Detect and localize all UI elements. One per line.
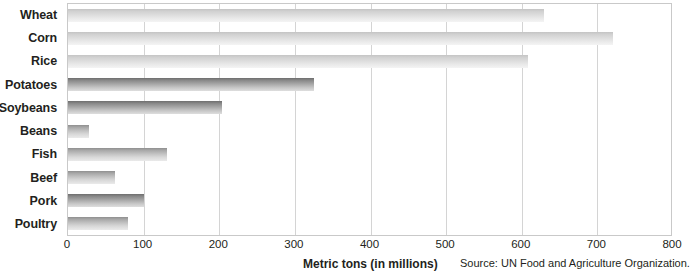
bar [68,32,613,45]
axis-tick-label: 0 [64,238,70,250]
category-axis: WheatCornRicePotatoesSoybeansBeansFishBe… [0,3,62,236]
bar-row [68,4,671,27]
bar-row [68,189,671,212]
axis-tick-label: 100 [133,238,152,250]
bar [68,194,144,207]
source-note: Source: UN Food and Agriculture Organiza… [460,257,690,269]
bar [68,9,544,22]
bar-rows [68,4,671,235]
x-axis-title: Metric tons (in millions) [303,257,438,271]
axis-tick-label: 800 [662,238,681,250]
bar [68,171,115,184]
bar-row [68,27,671,50]
category-label: Potatoes [0,73,62,96]
bar [68,125,89,138]
bar-row [68,166,671,189]
category-label: Corn [0,26,62,49]
category-label: Wheat [0,3,62,26]
axis-tick-label: 700 [587,238,606,250]
bar [68,148,167,161]
axis-tick-label: 500 [436,238,455,250]
category-label: Beef [0,166,62,189]
axis-tick-label: 600 [511,238,530,250]
category-label: Beans [0,119,62,142]
bar [68,55,528,68]
axis-tick-label: 300 [284,238,303,250]
category-label: Fish [0,143,62,166]
bar [68,101,222,114]
bar-row [68,212,671,235]
axis-tick-label: 200 [209,238,228,250]
axis-tick-label: 400 [360,238,379,250]
bar-row [68,119,671,142]
category-label: Rice [0,50,62,73]
plot-area [67,3,672,236]
bar [68,217,128,230]
bar-row [68,96,671,119]
bar [68,78,314,91]
bar-row [68,73,671,96]
bar-row [68,143,671,166]
category-label: Soybeans [0,96,62,119]
bar-row [68,50,671,73]
category-label: Pork [0,189,62,212]
value-axis: 0100200300400500600700800 [67,238,672,254]
category-label: Poultry [0,213,62,236]
